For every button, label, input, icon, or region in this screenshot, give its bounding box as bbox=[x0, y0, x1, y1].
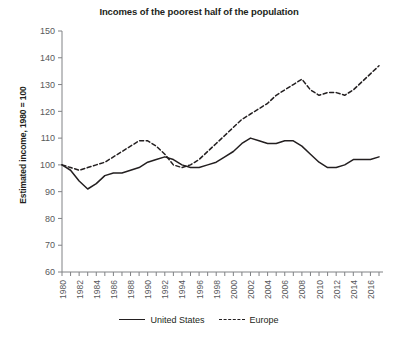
x-tick-label: 1992 bbox=[160, 280, 170, 299]
x-tick-label: 2006 bbox=[280, 280, 290, 299]
x-tick-label: 1998 bbox=[212, 280, 222, 299]
x-tick-label: 2002 bbox=[246, 280, 256, 299]
legend-label: Europe bbox=[250, 315, 279, 325]
legend-label: United States bbox=[150, 315, 204, 325]
x-tick-label: 1988 bbox=[126, 280, 136, 299]
x-tick-label: 1994 bbox=[177, 280, 187, 299]
y-tick-label: 100 bbox=[40, 160, 55, 170]
x-tick-label: 2014 bbox=[349, 280, 359, 299]
x-tick-label: 2004 bbox=[263, 280, 273, 299]
x-tick-label: 2012 bbox=[332, 280, 342, 299]
x-tick-label: 1982 bbox=[75, 280, 85, 299]
legend-swatch-dashed-line-icon bbox=[219, 316, 245, 324]
line-chart: Incomes of the poorest half of the popul… bbox=[0, 0, 398, 338]
x-tick-label: 2010 bbox=[315, 280, 325, 299]
y-tick-label: 120 bbox=[40, 107, 55, 117]
y-tick-label: 70 bbox=[45, 240, 55, 250]
y-axis: 60708090100110120130140150 bbox=[40, 26, 62, 277]
x-tick-label: 2016 bbox=[366, 280, 376, 299]
x-tick-label: 1984 bbox=[92, 280, 102, 299]
y-tick-label: 90 bbox=[45, 187, 55, 197]
legend-swatch-solid-line-icon bbox=[119, 316, 145, 324]
plot-area: 60708090100110120130140150 1980198219841… bbox=[0, 0, 398, 338]
y-tick-label: 140 bbox=[40, 53, 55, 63]
x-tick-label: 1996 bbox=[195, 280, 205, 299]
x-tick-label: 1990 bbox=[143, 280, 153, 299]
chart-legend: United StatesEurope bbox=[0, 315, 398, 325]
y-tick-label: 110 bbox=[41, 133, 55, 143]
x-tick-label: 1980 bbox=[58, 280, 68, 299]
series-lines bbox=[62, 66, 379, 189]
y-tick-label: 150 bbox=[40, 26, 55, 36]
legend-item[interactable]: United States bbox=[119, 315, 204, 325]
x-axis: 1980198219841986198819901992199419961998… bbox=[58, 272, 384, 299]
x-tick-label: 2000 bbox=[229, 280, 239, 299]
y-tick-label: 80 bbox=[45, 214, 55, 224]
y-tick-label: 130 bbox=[40, 80, 55, 90]
x-tick-label: 1986 bbox=[109, 280, 119, 299]
y-tick-label: 60 bbox=[45, 267, 55, 277]
x-tick-label: 2008 bbox=[297, 280, 307, 299]
series-line-united-states bbox=[62, 138, 379, 189]
legend-item[interactable]: Europe bbox=[219, 315, 279, 325]
series-line-europe bbox=[62, 66, 379, 170]
